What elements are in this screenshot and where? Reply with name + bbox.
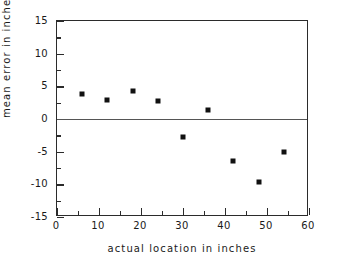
x-tick-major [225,208,226,215]
y-tick-minor [57,201,61,202]
data-point [130,88,135,93]
data-point [80,92,85,97]
y-tick-label: 15 [35,15,48,26]
y-tick-minor [57,103,61,104]
zero-reference-line [57,119,307,120]
x-tick-label: 30 [175,220,188,231]
x-tick-minor [162,211,163,215]
x-tick-minor [78,211,79,215]
x-tick-major [183,208,184,215]
x-tick-major [309,208,310,215]
x-axis-title: actual location in inches [108,243,257,254]
x-tick-minor [120,211,121,215]
x-tick-major [141,208,142,215]
data-point [256,179,261,184]
y-tick-major [57,152,64,153]
data-point [231,158,236,163]
x-tick-label: 20 [133,220,146,231]
y-tick-minor [57,135,61,136]
y-tick-label: -15 [31,211,48,222]
data-point [105,98,110,103]
plot-area [57,21,307,215]
y-tick-major [57,86,64,87]
x-tick-label: 50 [259,220,272,231]
y-tick-major [57,54,64,55]
y-tick-major [57,217,64,218]
x-tick-major [267,208,268,215]
x-tick-minor [246,211,247,215]
x-tick-major [99,208,100,215]
data-point [281,149,286,154]
x-tick-label: 0 [53,220,60,231]
y-tick-major [57,184,64,185]
x-tick-major [57,208,58,215]
scatter-chart-figure: mean error in inches actual location in … [0,0,360,272]
x-tick-label: 10 [91,220,104,231]
y-axis-title: mean error in inches [1,0,12,118]
x-tick-label: 40 [217,220,230,231]
data-point [206,107,211,112]
x-tick-minor [204,211,205,215]
y-tick-label: 5 [41,80,48,91]
data-point [155,99,160,104]
y-tick-major [57,21,64,22]
plot-frame [56,20,308,216]
x-tick-label: 60 [301,220,314,231]
y-tick-minor [57,70,61,71]
y-tick-label: -10 [31,178,48,189]
y-tick-minor [57,168,61,169]
x-tick-minor [288,211,289,215]
y-tick-label: 10 [35,47,48,58]
data-point [181,135,186,140]
y-tick-label: -5 [37,145,48,156]
y-tick-minor [57,37,61,38]
y-tick-label: 0 [41,113,48,124]
